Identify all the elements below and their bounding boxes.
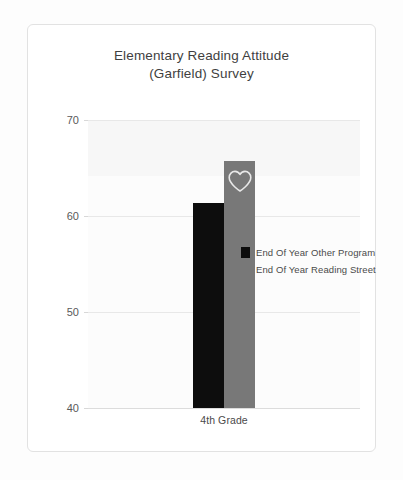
gridline-70 bbox=[88, 120, 360, 121]
bar-1-4th-grade[interactable] bbox=[224, 161, 255, 408]
chart-title-line-1: Elementary Reading Attitude bbox=[27, 47, 376, 65]
x-axis-label-0: 4th Grade bbox=[200, 414, 248, 426]
y-tick-label-70: 70 bbox=[67, 114, 79, 126]
heart-icon bbox=[227, 169, 253, 193]
gridline-40 bbox=[88, 408, 360, 409]
legend-swatch-0 bbox=[241, 247, 250, 258]
y-tick-mark-40 bbox=[84, 408, 88, 409]
y-tick-label-60: 60 bbox=[67, 210, 79, 222]
legend-swatch-1 bbox=[241, 264, 250, 275]
y-tick-label-50: 50 bbox=[67, 306, 79, 318]
legend-item-1[interactable]: End Of Year Reading Street bbox=[241, 262, 376, 277]
y-tick-mark-70 bbox=[84, 120, 88, 121]
legend-label-1: End Of Year Reading Street bbox=[256, 264, 376, 275]
bar-0-4th-grade[interactable] bbox=[193, 203, 224, 408]
y-tick-label-40: 40 bbox=[67, 402, 79, 414]
chart-page: Elementary Reading Attitude (Garfield) S… bbox=[0, 0, 403, 480]
y-tick-mark-50 bbox=[84, 312, 88, 313]
y-tick-mark-60 bbox=[84, 216, 88, 217]
chart-title-line-2: (Garfield) Survey bbox=[27, 65, 376, 83]
chart-title: Elementary Reading Attitude (Garfield) S… bbox=[27, 47, 376, 83]
legend-item-0[interactable]: End Of Year Other Program bbox=[241, 245, 376, 260]
chart-legend: End Of Year Other ProgramEnd Of Year Rea… bbox=[241, 245, 376, 279]
legend-label-0: End Of Year Other Program bbox=[256, 247, 375, 258]
